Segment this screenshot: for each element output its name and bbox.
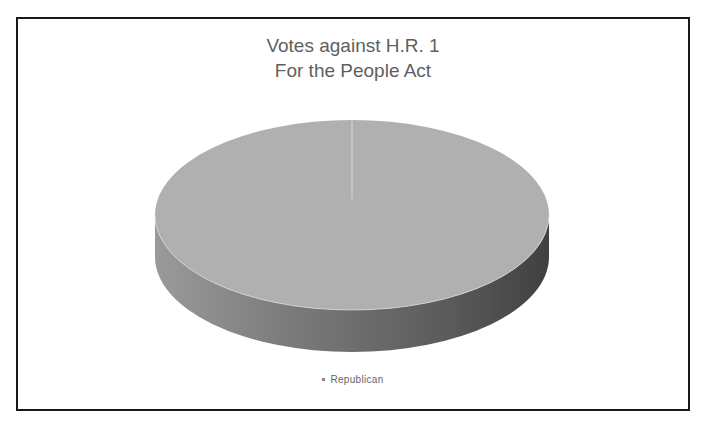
- pie-slice-republican[interactable]: [155, 120, 549, 352]
- pie-chart: [18, 19, 688, 409]
- legend-swatch-republican: [322, 378, 325, 381]
- legend-label-republican: Republican: [330, 374, 383, 385]
- chart-legend: Republican: [18, 373, 688, 385]
- chart-frame: Votes against H.R. 1 For the People Act …: [16, 17, 690, 411]
